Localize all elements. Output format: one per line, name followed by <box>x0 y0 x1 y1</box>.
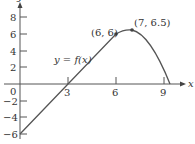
function-curve <box>20 30 170 134</box>
x-tick-label-6: 6 <box>112 87 118 98</box>
function-graph: 8 6 4 2 0 −2 −4 −6 3 6 9 x y (6, 6) (7, … <box>0 0 195 144</box>
x-axis-label: x <box>188 78 194 89</box>
y-ticks <box>20 17 27 134</box>
x-tick-label-3: 3 <box>64 87 70 98</box>
x-axis-arrow-icon <box>180 82 186 87</box>
y-axis-label: y <box>16 0 23 2</box>
point-7-6-5 <box>130 28 134 32</box>
y-tick-label-4: 4 <box>10 46 16 57</box>
y-tick-label-6: 6 <box>10 29 16 40</box>
y-tick-label-neg6: −6 <box>3 129 18 140</box>
function-label: y = f(x) <box>53 54 92 65</box>
point-label-6-6: (6, 6) <box>91 27 118 38</box>
x-tick-label-9: 9 <box>160 87 166 98</box>
y-axis-arrow-icon <box>18 2 23 8</box>
point-label-7-6-5: (7, 6.5) <box>134 17 171 28</box>
y-tick-label-8: 8 <box>10 12 16 23</box>
y-tick-label-neg2: −2 <box>3 96 18 107</box>
y-tick-label-neg4: −4 <box>3 112 18 123</box>
y-tick-label-2: 2 <box>10 62 16 73</box>
x-ticks <box>68 77 164 84</box>
